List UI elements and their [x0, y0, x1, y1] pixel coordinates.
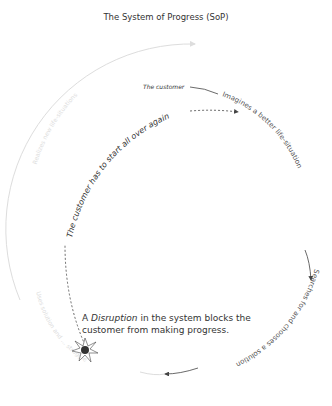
faded-arc-bottom	[140, 372, 165, 375]
progress-cycle-diagram: Realizes new life-situations Uses soluti…	[0, 0, 332, 406]
realizes-label: Realizes new life-situations	[31, 91, 79, 165]
note-prefix: A	[82, 313, 88, 323]
arrow-to-use	[165, 368, 198, 374]
restart-dashed-arrow	[190, 110, 238, 112]
disruption-note: A Disruption in the system blocks the cu…	[82, 312, 282, 336]
arrow-to-search	[305, 250, 311, 280]
the-customer-label: The customer	[143, 83, 184, 90]
note-emphasis: Disruption	[91, 313, 137, 323]
restart-label: The customer has to start all over again	[65, 111, 170, 238]
imagines-label: Imagines a better life-situation	[221, 90, 303, 169]
customer-pointer-line	[190, 87, 218, 94]
